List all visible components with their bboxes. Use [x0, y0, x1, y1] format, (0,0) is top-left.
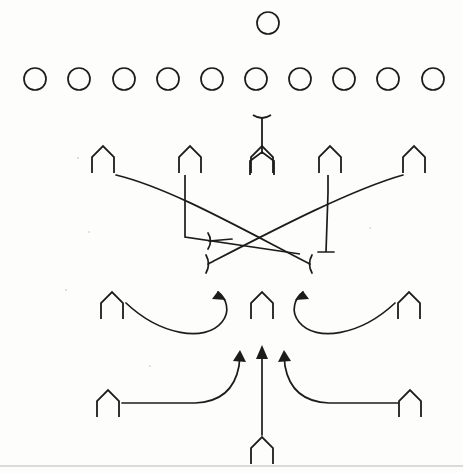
left-slot-route-arrowhead: [212, 291, 226, 300]
slot-hook-routes: [126, 291, 395, 334]
defender-9[interactable]: [377, 68, 399, 90]
play-diagram-canvas: [0, 0, 463, 473]
deep-back-dive: [256, 345, 268, 435]
defender-5[interactable]: [201, 68, 223, 90]
player-left-tackle[interactable]: [92, 146, 114, 173]
defender-3[interactable]: [113, 68, 135, 90]
paper-specks: [65, 157, 371, 367]
right-wideout-drag-path[interactable]: [284, 354, 398, 403]
blocking-assignments: [185, 175, 334, 254]
player-left-wideout[interactable]: [97, 390, 119, 417]
left-wideout-drag-path[interactable]: [122, 354, 240, 403]
play-diagram-page: [0, 0, 463, 473]
defender-8[interactable]: [333, 68, 355, 90]
offensive-line-row: [92, 146, 425, 173]
slot-receiver-row: [101, 292, 420, 319]
right-slot-route-arrowhead: [295, 291, 309, 300]
inner-route-stub[interactable]: [209, 239, 232, 241]
deep-back-group[interactable]: [251, 437, 273, 464]
defender-10[interactable]: [422, 68, 444, 90]
player-right-wideout[interactable]: [399, 390, 421, 417]
player-left-slot[interactable]: [101, 292, 123, 319]
right-wideout-route-arrowhead: [278, 350, 291, 362]
player-right-slot[interactable]: [398, 292, 420, 319]
right-guard-block-path[interactable]: [326, 175, 328, 252]
defender-4[interactable]: [157, 68, 179, 90]
right-tackle-crossing-path[interactable]: [208, 175, 403, 264]
player-middle-back[interactable]: [251, 292, 273, 319]
defender-1[interactable]: [24, 68, 46, 90]
crossing-routes: [116, 175, 403, 273]
defensive-front-row: [24, 68, 444, 90]
player-left-guard[interactable]: [179, 146, 201, 173]
player-right-guard[interactable]: [319, 146, 341, 173]
player-right-tackle[interactable]: [403, 146, 425, 173]
defender-6[interactable]: [245, 68, 267, 90]
defender-7[interactable]: [289, 68, 311, 90]
defender-deep-safety[interactable]: [257, 12, 279, 34]
deep-back-route-arrowhead: [256, 345, 268, 359]
left-slot-hook-path[interactable]: [126, 292, 227, 334]
defense-group: [24, 12, 444, 90]
left-wideout-route-arrowhead: [233, 350, 246, 362]
quarterback-cup-icon: [253, 115, 271, 118]
player-deep-back: [251, 437, 273, 464]
defender-2[interactable]: [68, 68, 90, 90]
right-slot-hook-path[interactable]: [294, 292, 395, 334]
left-guard-block-path[interactable]: [185, 175, 300, 254]
